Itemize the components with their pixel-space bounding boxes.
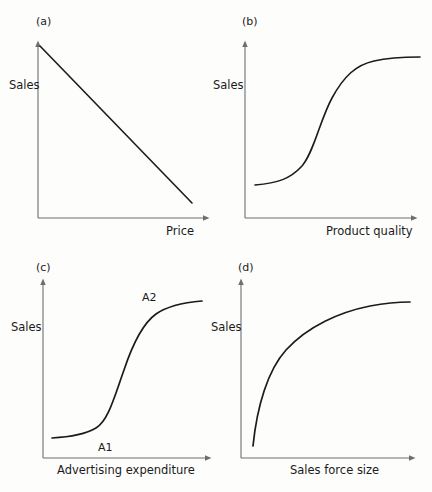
curve-annotation-a2: A2 [142, 292, 157, 303]
panel-letter-b: (b) [242, 16, 258, 27]
chart-d-graphic [216, 246, 432, 492]
chart-a-graphic [0, 0, 216, 246]
chart-panel-b: (b) Sales Product quality [216, 0, 432, 246]
y-axis-label-c: Sales [11, 322, 42, 334]
chart-panel-c: (c) Sales A1 A2 Advertising expenditure [0, 246, 216, 492]
chart-c-graphic [0, 246, 216, 492]
x-axis-label-c: Advertising expenditure [57, 465, 195, 477]
chart-panel-d: (d) Sales Sales force size [216, 246, 432, 492]
x-axis-label-b: Product quality [326, 226, 413, 238]
data-curve-d [253, 302, 410, 446]
figure-canvas: (a) Sales Price (b) Sales Product qualit… [0, 0, 432, 492]
curve-annotation-a1: A1 [98, 442, 113, 453]
chart-b-graphic [216, 0, 432, 246]
y-axis-label-b: Sales [213, 80, 244, 92]
data-curve-a [40, 46, 192, 203]
y-axis-label-d: Sales [211, 322, 242, 334]
x-axis-label-d: Sales force size [290, 465, 379, 477]
panel-letter-a: (a) [36, 16, 51, 27]
y-axis-label-a: Sales [9, 80, 40, 92]
data-curve-b [255, 57, 420, 185]
chart-panel-a: (a) Sales Price [0, 0, 216, 246]
x-axis-label-a: Price [166, 226, 194, 238]
panel-letter-d: (d) [238, 262, 254, 273]
data-curve-c [52, 301, 202, 438]
panel-letter-c: (c) [36, 262, 51, 273]
